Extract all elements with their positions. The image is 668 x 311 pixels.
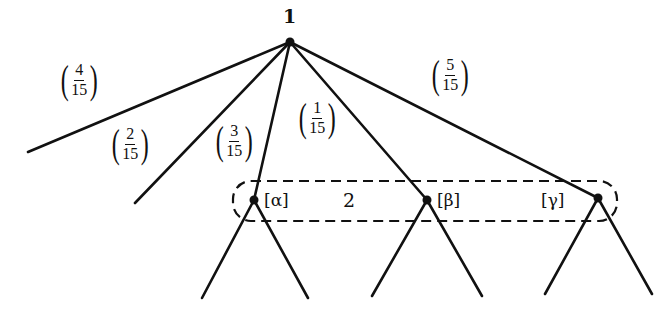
prob-label-2-15: ( 2 15 ) [109, 124, 152, 164]
right-paren: ) [328, 98, 336, 138]
left-paren: ( [61, 60, 69, 100]
fraction: 1 15 [309, 100, 325, 137]
right-paren: ) [461, 55, 469, 95]
prob-label-5-15: ( 5 15 ) [429, 55, 472, 95]
fraction: 5 15 [442, 57, 458, 94]
root-player-label: 1 [283, 5, 296, 27]
left-paren: ( [216, 121, 224, 161]
edge-gamma-right [598, 198, 652, 294]
game-tree [0, 0, 668, 311]
edge-alpha-right [254, 200, 308, 298]
belief-label-gamma: [γ] [541, 190, 564, 210]
left-paren: ( [112, 124, 120, 164]
prob-label-3-15: ( 3 15 ) [213, 121, 256, 161]
edge-gamma-left [545, 198, 598, 294]
infoset-player-label: 2 [343, 189, 355, 211]
belief-label-beta: [β] [437, 190, 460, 210]
edge-alpha-left [202, 200, 254, 298]
left-paren: ( [432, 55, 440, 95]
node-alpha [250, 196, 259, 205]
left-paren: ( [299, 98, 307, 138]
prob-label-4-15: ( 4 15 ) [58, 60, 101, 100]
fraction: 3 15 [226, 123, 242, 160]
node-beta [423, 196, 432, 205]
right-paren: ) [141, 124, 149, 164]
right-paren: ) [90, 60, 98, 100]
edge-beta-left [372, 200, 427, 296]
right-paren: ) [245, 121, 253, 161]
root-node [286, 38, 295, 47]
fraction: 4 15 [71, 62, 87, 99]
fraction: 2 15 [122, 126, 138, 163]
node-gamma [594, 194, 603, 203]
prob-label-1-15: ( 1 15 ) [296, 98, 339, 138]
edge-3-15 [254, 42, 290, 200]
belief-label-alpha: [α] [264, 190, 289, 210]
edge-beta-right [427, 200, 482, 296]
